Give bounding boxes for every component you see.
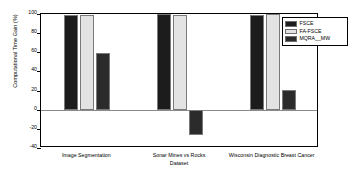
bar-fsce-1 [157, 14, 171, 110]
y-axis-tick [37, 110, 41, 111]
y-axis-tick [37, 33, 41, 34]
legend-item-label: MQRA__MW [300, 36, 331, 41]
legend-item-label: FA-FSCE [300, 29, 322, 34]
y-axis-tick-label: -40 [30, 144, 38, 149]
zero-baseline [41, 110, 317, 111]
legend-item[interactable]: MQRA__MW [285, 36, 345, 43]
bar-fa-fsce-1 [173, 15, 187, 110]
chart-legend: FSCEFA-FSCEMQRA__MW [282, 17, 348, 46]
legend-swatch-icon [285, 29, 297, 35]
x-axis-group-label: Wisconsin Diagnostic Breast Cancer [229, 152, 315, 158]
legend-swatch-icon [285, 36, 297, 42]
bar-mqra-mw-2 [282, 90, 296, 110]
y-axis-tick-label: 100 [28, 10, 37, 15]
y-axis-tick [37, 148, 41, 149]
y-axis-tick [37, 129, 41, 130]
y-axis-tick [37, 71, 41, 72]
plot-area [40, 13, 318, 147]
legend-item[interactable]: FSCE [285, 21, 345, 28]
bar-fsce-0 [64, 15, 78, 110]
legend-item-label: FSCE [300, 21, 314, 26]
bar-fsce-2 [250, 15, 264, 110]
y-axis-tick-labels: -40-20020406080100 [16, 13, 37, 147]
x-axis-group-label: Sonar Mines vs Rocks [153, 152, 206, 158]
bar-mqra-mw-0 [96, 53, 110, 109]
x-axis-title: Dataset [170, 160, 188, 166]
bar-fa-fsce-0 [80, 15, 94, 110]
y-axis-tick [37, 52, 41, 53]
legend-item[interactable]: FA-FSCE [285, 28, 345, 35]
x-axis-group-label: Image Segmentation [62, 152, 111, 158]
bar-mqra-mw-1 [189, 110, 203, 135]
chart-figure: Computational Time Gain (%) -40-20020406… [0, 0, 354, 180]
y-axis-tick-label: -20 [30, 125, 38, 130]
legend-swatch-icon [285, 21, 297, 27]
bar-fa-fsce-2 [266, 14, 280, 110]
y-axis-tick [37, 91, 41, 92]
y-axis-tick [37, 14, 41, 15]
